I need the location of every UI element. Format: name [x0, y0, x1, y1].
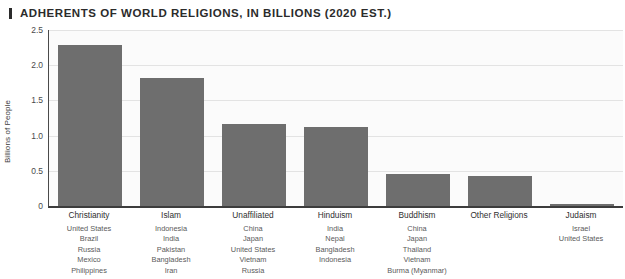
- country-list-item: Russia: [212, 266, 294, 276]
- y-axis-tick-label: 1.0: [3, 131, 43, 141]
- country-list-item: United States: [212, 245, 294, 255]
- country-list-item: Philippines: [48, 266, 130, 276]
- category-column: HinduismIndiaNepalBangladeshIndonesia: [294, 210, 376, 266]
- country-list-item: United States: [48, 224, 130, 234]
- chart-container: Billions of People 00.51.01.52.02.5 Chri…: [0, 24, 625, 268]
- bar-judaism[interactable]: [550, 204, 614, 206]
- country-list-item: Nepal: [294, 234, 376, 244]
- country-list-item: China: [376, 224, 458, 234]
- x-axis-tick-label: Buddhism: [376, 210, 458, 220]
- country-list-item: Bangladesh: [130, 255, 212, 265]
- gridline: [49, 30, 623, 31]
- bar-unaffiliated[interactable]: [222, 124, 286, 206]
- plot-area: 00.51.01.52.02.5: [48, 30, 623, 208]
- country-list-item: Burma (Myanmar): [376, 266, 458, 276]
- country-list-item: Vietnam: [212, 255, 294, 265]
- x-axis-tick-label: Islam: [130, 210, 212, 220]
- category-column: UnaffiliatedChinaJapanUnited StatesVietn…: [212, 210, 294, 276]
- category-column: BuddhismChinaJapanThailandVietnamBurma (…: [376, 210, 458, 276]
- country-list-item: Thailand: [376, 245, 458, 255]
- country-list-item: Iran: [130, 266, 212, 276]
- country-list-item: Japan: [212, 234, 294, 244]
- y-axis-tick-label: 0.5: [3, 166, 43, 176]
- x-axis-tick-label: Judaism: [540, 210, 622, 220]
- y-axis-tick-label: 0: [3, 201, 43, 211]
- category-column: Other Religions: [458, 210, 540, 224]
- country-list-item: United States: [540, 234, 622, 244]
- country-list-item: Russia: [48, 245, 130, 255]
- bar-islam[interactable]: [140, 78, 204, 206]
- y-axis-tick-label: 1.5: [3, 95, 43, 105]
- gridline: [49, 100, 623, 101]
- category-labels: ChristianityUnited StatesBrazilRussiaMex…: [48, 210, 622, 279]
- x-axis-tick-label: Christianity: [48, 210, 130, 220]
- country-list-item: Bangladesh: [294, 245, 376, 255]
- country-list-item: India: [294, 224, 376, 234]
- country-list-item: Indonesia: [130, 224, 212, 234]
- country-list-item: Indonesia: [294, 255, 376, 265]
- y-axis-tick-label: 2.0: [3, 60, 43, 70]
- bar-other-religions[interactable]: [468, 176, 532, 206]
- category-column: ChristianityUnited StatesBrazilRussiaMex…: [48, 210, 130, 276]
- country-list-item: Mexico: [48, 255, 130, 265]
- country-list-item: Japan: [376, 234, 458, 244]
- country-list-item: China: [212, 224, 294, 234]
- x-axis-tick-label: Unaffiliated: [212, 210, 294, 220]
- country-list-item: Vietnam: [376, 255, 458, 265]
- bar-christianity[interactable]: [58, 45, 122, 206]
- page-title: ADHERENTS OF WORLD RELIGIONS, IN BILLION…: [20, 7, 392, 19]
- country-list-item: Pakistan: [130, 245, 212, 255]
- category-column: JudaismIsraelUnited States: [540, 210, 622, 245]
- category-column: IslamIndonesiaIndiaPakistanBangladeshIra…: [130, 210, 212, 276]
- x-axis-tick-label: Other Religions: [458, 210, 540, 220]
- gridline: [49, 65, 623, 66]
- country-list-item: Israel: [540, 224, 622, 234]
- bar-hinduism[interactable]: [304, 127, 368, 206]
- country-list-item: Brazil: [48, 234, 130, 244]
- x-axis-tick-label: Hinduism: [294, 210, 376, 220]
- title-marker-icon: [9, 8, 12, 19]
- bar-buddhism[interactable]: [386, 174, 450, 206]
- y-axis-tick-label: 2.5: [3, 25, 43, 35]
- chart-header: ADHERENTS OF WORLD RELIGIONS, IN BILLION…: [0, 0, 625, 22]
- country-list-item: India: [130, 234, 212, 244]
